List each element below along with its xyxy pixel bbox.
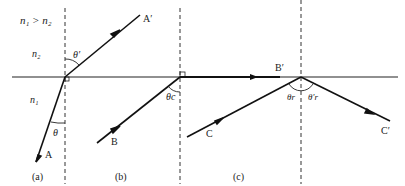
arrowhead-a (36, 155, 41, 162)
ray-b-incident (97, 77, 180, 143)
condition-label: n₁ > n₂ (20, 14, 52, 26)
angle-label-theta: θ (53, 127, 58, 138)
angle-label-theta-r-prime: θ′r (308, 92, 318, 102)
arrowhead-b-prime (250, 74, 258, 80)
angle-label-theta-c: θc (166, 91, 176, 102)
ray-a-refracted (65, 15, 140, 77)
angle-label-theta-prime: θ′ (73, 49, 81, 60)
ray-label-c-prime: C′ (381, 125, 390, 136)
refraction-diagram: n₁ > n₂ n₂ n₁ θ′ θ A A′ θc B B′ θr θ′r C… (0, 0, 405, 186)
ray-label-b-prime: B′ (275, 62, 284, 73)
ray-label-c: C (206, 128, 213, 139)
ray-label-a: A (45, 149, 53, 160)
ray-c-incident (187, 77, 301, 137)
ray-label-a-prime: A′ (143, 13, 152, 24)
angle-label-theta-r: θr (287, 92, 295, 102)
arrowhead-b (111, 126, 120, 133)
panel-label-c: (c) (233, 171, 244, 183)
medium-upper-label: n₂ (32, 48, 41, 59)
medium-lower-label: n₁ (30, 94, 38, 105)
angle-arc-theta (51, 122, 65, 123)
ray-label-b: B (111, 136, 118, 147)
panel-label-b: (b) (115, 171, 127, 183)
panel-label-a: (a) (32, 171, 43, 183)
arrowhead-c (215, 118, 223, 124)
